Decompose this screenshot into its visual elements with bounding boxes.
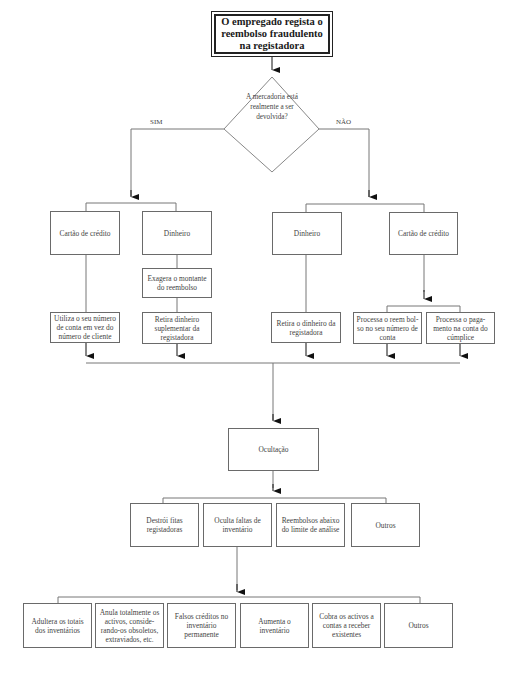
- inventory-method: Adultera os totais dos inventários: [23, 603, 92, 648]
- no-label: NÃO: [336, 118, 351, 126]
- take-extra-cash-node: Retira dinheiro suplementar da registado…: [142, 312, 212, 344]
- concealment-method: Destrói fitas registadoras: [130, 503, 199, 547]
- inventory-method: Anula totalmente os activos, conside-ran…: [95, 603, 164, 648]
- process-refund-own-account-node: Processa o reem bol-so no seu número de …: [353, 312, 422, 344]
- inventory-method: Cobra os activos a contas a receber exis…: [312, 603, 381, 648]
- use-own-account-node: Utiliza o seu número de conta em vez do …: [50, 312, 120, 343]
- no-credit-card-node: Cartão de crédito: [389, 212, 458, 255]
- process-payment-accomplice-node: Processa o paga-mento na conta do cúmpli…: [426, 312, 495, 344]
- concealment-method: Outros: [351, 503, 420, 547]
- start-node: O empregado regista o reembolso fraudule…: [211, 11, 333, 57]
- decision-question: A mercadoria está realmente a ser devolv…: [236, 92, 308, 122]
- exaggerate-refund-node: Exagera o montante do reembolso: [142, 268, 212, 298]
- yes-label: SIM: [150, 118, 162, 126]
- concealment-method: Oculta faltas de inventário: [203, 503, 272, 547]
- start-node-label: O empregado regista o reembolso fraudule…: [214, 14, 330, 54]
- take-cash-from-register-node: Retira o dinheiro da registadora: [271, 312, 341, 343]
- concealment-node: Ocultação: [228, 428, 319, 471]
- inventory-method: Aumenta o inventário: [240, 603, 309, 648]
- concealment-method: Reembolsos abaixo do limite de análise: [276, 503, 345, 547]
- inventory-method: Falsos créditos no inventário permanente: [167, 603, 236, 648]
- inventory-method: Outros: [384, 603, 453, 648]
- no-cash-node: Dinheiro: [272, 212, 342, 255]
- yes-cash-node: Dinheiro: [142, 211, 212, 255]
- yes-credit-card-node: Cartão de crédito: [50, 211, 120, 255]
